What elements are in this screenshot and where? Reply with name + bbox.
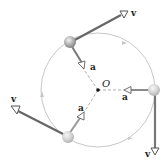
path-direction-arrow-bottom (128, 137, 133, 140)
particle-top (64, 36, 76, 48)
path-direction-arrow-top (122, 41, 127, 45)
velocity-vector-left (11, 106, 67, 136)
velocity-label-right: v (144, 149, 151, 159)
particle-bottom-left (62, 131, 74, 143)
circular-motion-diagram: O a a a v v v (0, 0, 168, 162)
acceleration-vector-right (124, 87, 152, 94)
acceleration-vector-left (69, 112, 84, 134)
radius-left (83, 90, 98, 114)
center-point (96, 88, 100, 92)
acceleration-label-top: a (90, 62, 96, 72)
particle-right (148, 84, 160, 96)
velocity-vector-right (151, 92, 159, 155)
velocity-label-top: v (130, 8, 137, 18)
center-label: O (102, 78, 110, 89)
acceleration-label-right: a (122, 92, 128, 102)
velocity-label-left: v (10, 94, 17, 104)
acceleration-vector-top (71, 45, 85, 69)
acceleration-label-left: a (78, 103, 84, 113)
